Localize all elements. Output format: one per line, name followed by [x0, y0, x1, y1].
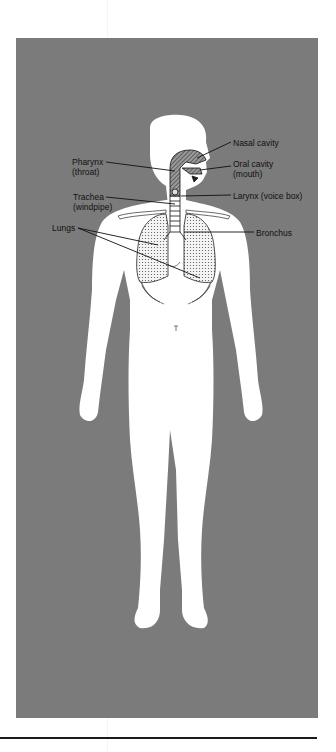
- label-trachea-sub: (windpipe): [73, 202, 112, 212]
- label-lungs: Lungs: [52, 223, 75, 233]
- respiratory-system-illustration: [0, 0, 336, 752]
- label-oral-cavity: Oral cavity: [233, 159, 273, 169]
- label-nasal-cavity: Nasal cavity: [233, 138, 279, 148]
- label-oral-cavity-sub: (mouth): [233, 169, 262, 179]
- horizontal-rule: [0, 737, 317, 739]
- label-trachea: Trachea: [73, 192, 104, 202]
- label-pharynx-sub: (throat): [72, 167, 99, 177]
- label-larynx: Larynx (voice box): [233, 191, 302, 201]
- label-bronchus: Bronchus: [256, 228, 292, 238]
- label-pharynx: Pharynx: [72, 157, 103, 167]
